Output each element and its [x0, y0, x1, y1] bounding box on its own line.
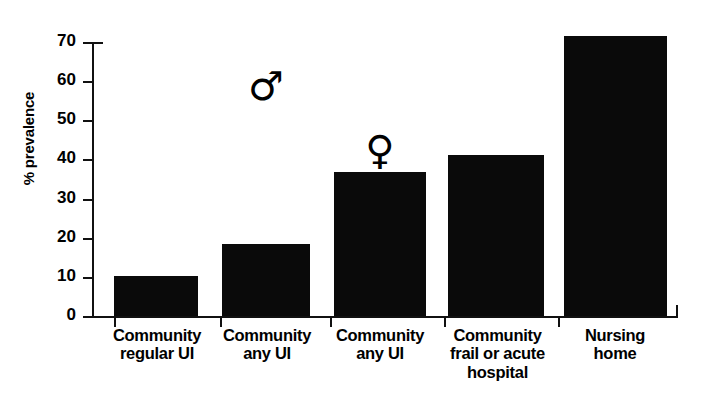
y-tick-label-30: 30	[57, 188, 76, 208]
y-tick-label-20: 20	[57, 227, 76, 247]
x-category-label-0: Community regular UI	[104, 326, 210, 363]
x-category-label-3-line-2: hospital	[440, 363, 555, 381]
x-category-label-4-line-0: Nursing	[562, 326, 668, 344]
y-tick-40: 40	[83, 159, 94, 161]
y-tick-60: 60	[83, 81, 94, 83]
y-axis-line	[92, 42, 94, 317]
female-symbol-icon: ♀	[334, 130, 426, 170]
bar-chart-figure: % prevalence 0 10 20 30 40 50 60 70	[0, 0, 718, 403]
x-category-label-1: Community any UI	[214, 326, 320, 363]
x-category-label-2-line-0: Community	[327, 326, 433, 344]
bar-community-any-ui-female	[334, 172, 426, 316]
y-tick-label-70: 70	[57, 31, 76, 51]
x-category-label-1-line-1: any UI	[214, 344, 320, 362]
y-tick-label-0: 0	[67, 305, 76, 325]
x-axis-line	[92, 316, 678, 318]
y-tick-50: 50	[83, 120, 94, 122]
x-tick-sep-4	[558, 316, 560, 327]
x-category-label-0-line-0: Community	[104, 326, 210, 344]
bar-nursing-home	[564, 36, 667, 316]
y-tick-label-50: 50	[57, 109, 76, 129]
x-category-label-2: Community any UI	[327, 326, 433, 363]
x-category-label-1-line-0: Community	[214, 326, 320, 344]
y-tick-10: 10	[83, 277, 94, 279]
x-category-label-4: Nursing home	[562, 326, 668, 363]
male-symbol-icon: ♂	[222, 66, 310, 106]
y-tick-70: 70	[83, 42, 94, 44]
bar-community-regular-ui	[114, 276, 198, 316]
y-axis-label: % prevalence	[20, 59, 37, 219]
bar-community-frail-acute-hospital	[448, 155, 544, 316]
x-category-label-2-line-1: any UI	[327, 344, 433, 362]
x-category-label-3-line-0: Community	[440, 326, 555, 344]
y-tick-label-60: 60	[57, 70, 76, 90]
y-tick-label-10: 10	[57, 266, 76, 286]
y-tick-label-40: 40	[57, 148, 76, 168]
x-axis-end-cap	[676, 305, 678, 318]
y-tick-20: 20	[83, 238, 94, 240]
x-category-label-4-line-1: home	[562, 344, 668, 362]
y-tick-30: 30	[83, 199, 94, 201]
y-tick-0: 0	[83, 316, 94, 318]
plot-area: 0 10 20 30 40 50 60 70	[92, 42, 678, 316]
bar-community-any-ui-male	[222, 244, 310, 316]
x-category-label-3: Community frail or acute hospital	[440, 326, 555, 381]
x-category-label-0-line-1: regular UI	[104, 344, 210, 362]
x-category-label-3-line-1: frail or acute	[440, 344, 555, 362]
